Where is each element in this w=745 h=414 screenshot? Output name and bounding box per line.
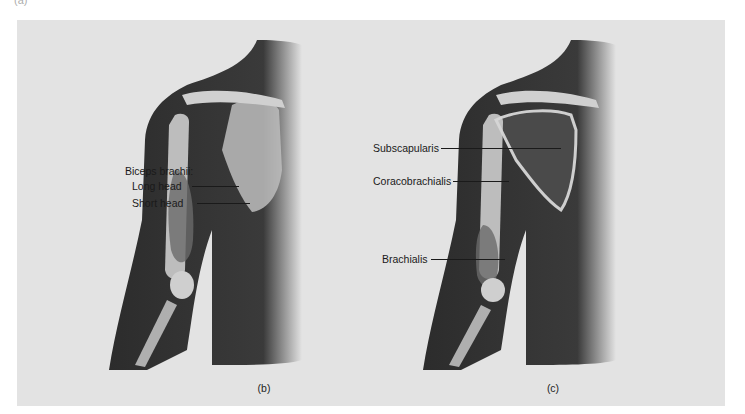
figure-panel-c: Subscapularis Coracobrachialis Brachiali… bbox=[371, 20, 725, 406]
leader-line-long-head bbox=[192, 186, 239, 187]
figure-panel-b: Biceps brachii: Long head Short head (b) bbox=[17, 20, 371, 406]
biceps-brachii-group-label: Biceps brachii: bbox=[125, 165, 193, 177]
leader-line-short-head bbox=[197, 203, 250, 204]
caption-b: (b) bbox=[249, 382, 279, 394]
label-long-head: Long head bbox=[132, 180, 182, 192]
leader-line-subscapularis bbox=[441, 148, 561, 149]
leader-line-coracobrachialis bbox=[453, 181, 509, 182]
arm-illustration-c bbox=[371, 20, 725, 406]
figure-a-partial-label: (a) bbox=[14, 0, 27, 6]
label-subscapularis: Subscapularis bbox=[373, 142, 439, 154]
caption-c: (c) bbox=[538, 382, 568, 394]
label-brachialis: Brachialis bbox=[382, 253, 428, 265]
arm-illustration-b bbox=[17, 20, 371, 406]
leader-line-brachialis bbox=[431, 259, 505, 260]
label-coracobrachialis: Coracobrachialis bbox=[373, 175, 451, 187]
label-short-head: Short head bbox=[132, 197, 183, 209]
